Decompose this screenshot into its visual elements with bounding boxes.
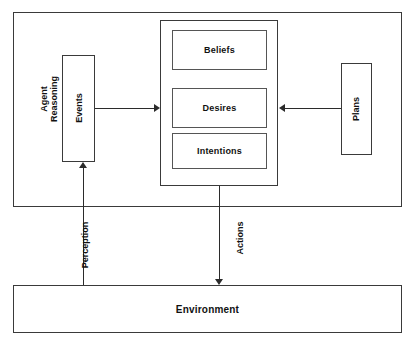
events-label: Events: [71, 73, 87, 143]
perception-arrowhead: [79, 162, 87, 168]
diagram-canvas: AgentReasoning Events Beliefs Desires In…: [0, 0, 415, 348]
actions-line: [219, 186, 220, 279]
agent-reasoning-label-text: AgentReasoning: [39, 76, 60, 122]
environment-label: Environment: [13, 285, 402, 333]
intentions-label: Intentions: [172, 133, 267, 169]
plans-label: Plans: [348, 79, 364, 139]
plans-to-bdi-arrowhead: [279, 104, 285, 112]
events-to-bdi-arrowhead: [154, 104, 160, 112]
perception-label: Perception: [77, 200, 93, 290]
events-to-bdi-line: [95, 108, 154, 109]
desires-label: Desires: [172, 88, 267, 128]
actions-label: Actions: [232, 202, 248, 274]
plans-to-bdi-line: [285, 108, 341, 109]
beliefs-label: Beliefs: [172, 30, 267, 70]
